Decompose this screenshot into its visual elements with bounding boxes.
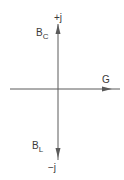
label-bc-sub: C <box>43 32 49 41</box>
label-bl-main: B <box>32 140 39 151</box>
label-g: G <box>102 75 110 85</box>
label-bl-sub: L <box>39 145 43 154</box>
label-minus-j: −j <box>48 163 56 173</box>
label-bc: BC <box>36 28 48 41</box>
down-arrowhead-icon <box>56 148 61 158</box>
up-arrowhead-icon <box>56 24 61 34</box>
label-plus-j: +j <box>54 13 62 23</box>
axes-diagram <box>0 0 124 180</box>
label-bc-main: B <box>36 27 43 38</box>
label-bl: BL <box>32 141 43 154</box>
g-arrowhead-icon <box>102 87 112 92</box>
